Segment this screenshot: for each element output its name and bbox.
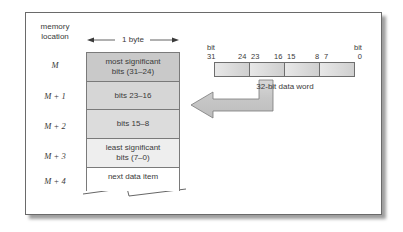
bit-7-label: 7 — [324, 52, 328, 61]
memory-cell-m-plus-3: least significantbits (7–0) — [86, 138, 180, 168]
byte-width-label: 1 byte — [116, 35, 150, 45]
bit-8-label: 8 — [315, 52, 319, 61]
memory-cell-m: most significantbits (31–24) — [86, 52, 180, 82]
bit-0-label: bit 0 — [354, 43, 362, 61]
data-word-byte-31-24 — [214, 62, 250, 77]
bit-24-label: 24 — [238, 52, 246, 61]
address-m-plus-3: M + 3 — [30, 151, 80, 161]
bit-31-label: bit 31 — [207, 43, 215, 61]
address-m-plus-2: M + 2 — [30, 121, 80, 131]
address-m-plus-4: M + 4 — [30, 176, 80, 186]
bit-16-label: 16 — [274, 52, 282, 61]
bit-23-label: 23 — [251, 52, 259, 61]
data-word-byte-23-16 — [249, 62, 285, 77]
bit-15-label: 15 — [287, 52, 295, 61]
diagram-graphics — [0, 0, 403, 232]
address-m: M — [30, 60, 80, 70]
address-m-plus-1: M + 1 — [30, 91, 80, 101]
memory-cell-m-plus-4: next data item — [86, 167, 180, 191]
memory-cell-m-plus-1: bits 23–16 — [86, 81, 180, 110]
data-word-caption: 32-bit data word — [245, 82, 325, 92]
data-word-byte-7-0 — [319, 62, 355, 77]
memory-cell-m-plus-2: bits 15–8 — [86, 109, 180, 139]
data-word-byte-15-8 — [284, 62, 320, 77]
